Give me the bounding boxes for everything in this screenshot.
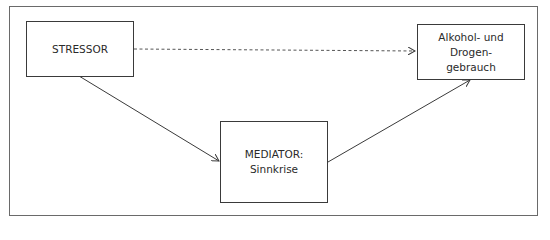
stressor-label: STRESSOR — [52, 42, 108, 57]
outcome-node: Alkohol- und Drogen- gebrauch — [417, 24, 525, 80]
outcome-label-line-1: Alkohol- und — [438, 30, 503, 45]
outcome-label-line-2: Drogen- — [438, 45, 503, 60]
outcome-label-line-3: gebrauch — [438, 60, 503, 75]
mediator-label-line-1: MEDIATOR: — [245, 147, 303, 162]
edge-mediator-to-outcome — [328, 80, 470, 162]
mediator-label-line-2: Sinnkrise — [245, 162, 303, 177]
stressor-node: STRESSOR — [26, 21, 134, 77]
edge-stressor-to-mediator — [79, 76, 219, 161]
edge-stressor-to-outcome-dashed — [134, 49, 415, 51]
mediator-node: MEDIATOR: Sinnkrise — [220, 121, 328, 203]
